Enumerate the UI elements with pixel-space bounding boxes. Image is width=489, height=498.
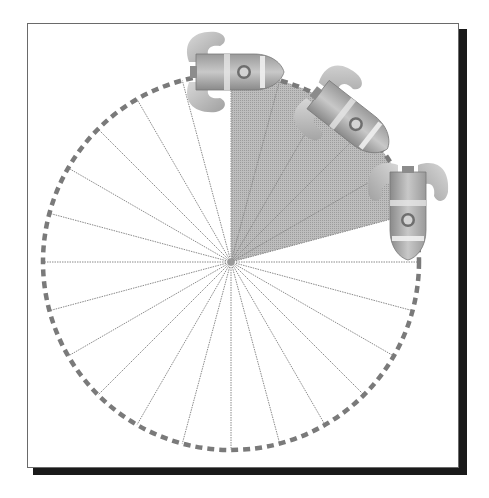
center-hub [228, 259, 234, 265]
spoke [68, 262, 231, 356]
spoke [98, 262, 231, 395]
spoke [231, 262, 394, 356]
spoke [98, 129, 231, 262]
spoke [49, 262, 231, 311]
spoke [137, 262, 231, 425]
spoke [231, 262, 364, 395]
spoke [68, 168, 231, 262]
spoke [182, 262, 231, 444]
spoke [49, 213, 231, 262]
orbit-diagram [0, 0, 489, 498]
spoke [137, 99, 231, 262]
spoke [231, 262, 413, 311]
spoke [231, 262, 280, 444]
spoke [231, 262, 325, 425]
